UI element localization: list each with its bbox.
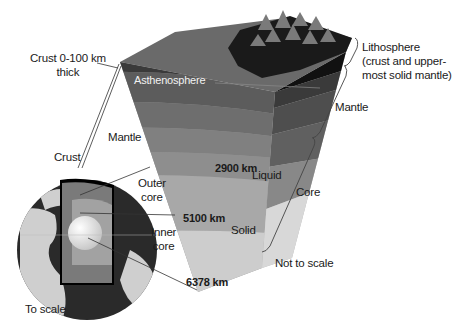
crust-thickness-line1: Crust 0-100 km	[30, 51, 106, 65]
cutaway-inner-core	[68, 216, 102, 250]
depth-2900-label: 2900 km	[215, 161, 257, 175]
inner-core-line1: Inner	[151, 225, 176, 239]
not-to-scale-label: Not to scale	[275, 256, 333, 270]
core-label: Core	[296, 185, 320, 199]
outer-core-label: Outer core	[138, 176, 166, 204]
earth-structure-diagram: Crust 0-100 km thick Asthenosphere Mantl…	[0, 0, 462, 323]
lithosphere-title: Lithosphere	[362, 40, 452, 54]
solid-label: Solid	[231, 223, 256, 237]
to-scale-label: To scale	[25, 302, 66, 316]
depth-6378-label: 6378 km	[186, 275, 228, 289]
depth-5100-label: 5100 km	[183, 211, 225, 225]
mantle-left-label: Mantle	[108, 130, 141, 144]
outer-core-line2: core	[138, 190, 166, 204]
crust-thickness-label: Crust 0-100 km thick	[30, 51, 106, 79]
lithosphere-desc-line1: (crust and upper-	[362, 54, 452, 68]
mantle-right-label: Mantle	[335, 100, 368, 114]
inner-core-label: Inner core	[151, 225, 176, 253]
inner-core-line2: core	[151, 239, 176, 253]
lithosphere-desc-line2: most solid mantle)	[362, 68, 452, 82]
outer-core-line1: Outer	[138, 176, 166, 190]
crust-globe-label: Crust	[54, 150, 80, 164]
crust-thickness-line2: thick	[30, 65, 106, 79]
liquid-label: Liquid	[252, 168, 282, 182]
lithosphere-label: Lithosphere (crust and upper- most solid…	[362, 40, 452, 82]
asthenosphere-label: Asthenosphere	[134, 73, 205, 87]
